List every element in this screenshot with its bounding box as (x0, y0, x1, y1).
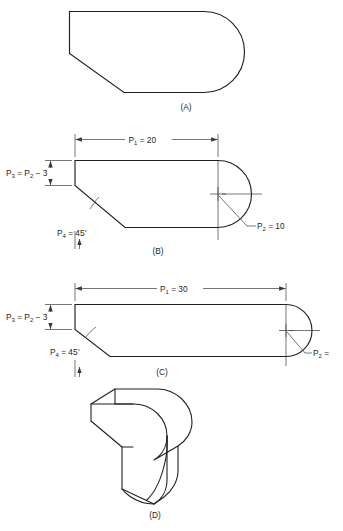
view-c-outline (75, 305, 312, 357)
view-d-top-face (91, 389, 192, 460)
view-c-group: P1 = 30 P3 = P2 − 3 P4 = 45° P2 = (C) (6, 283, 329, 377)
view-b-label: (B) (152, 246, 163, 256)
view-d-group: (D) (91, 389, 192, 520)
view-c-label: (C) (156, 367, 168, 377)
view-d-right-seam (147, 436, 167, 500)
view-a-group: (A) (70, 12, 245, 113)
view-b-p2-leader (219, 196, 247, 226)
view-b-p4-label: P4 = 45° (57, 228, 88, 239)
view-c-p3-label: P3 = P2 − 3 (6, 312, 48, 323)
view-a-outline (70, 12, 245, 93)
view-c-p2-label: P2 = (313, 348, 329, 359)
technical-drawing: (A) P1 = 20 P3 = P2 − 3 P4 = 45° (0, 0, 343, 531)
view-b-p3-label: P3 = P2 − 3 (6, 168, 48, 179)
view-c-p1-label: P1 = 30 (160, 284, 188, 295)
view-a-label: (A) (180, 102, 191, 112)
view-b-p2-label: P2 = 10 (257, 221, 285, 232)
view-c-p4-label: P4 = 45° (50, 347, 81, 358)
view-d-label: (D) (149, 510, 161, 520)
drawing-sheet: (A) P1 = 20 P3 = P2 − 3 P4 = 45° (0, 0, 343, 531)
view-b-p1-label: P1 = 20 (129, 135, 157, 146)
view-c-p2-leader (287, 332, 305, 353)
view-c-p4-leader (85, 327, 96, 338)
view-b-group: P1 = 20 P3 = P2 − 3 P4 = 45° P2 = 10 (B) (6, 134, 285, 256)
